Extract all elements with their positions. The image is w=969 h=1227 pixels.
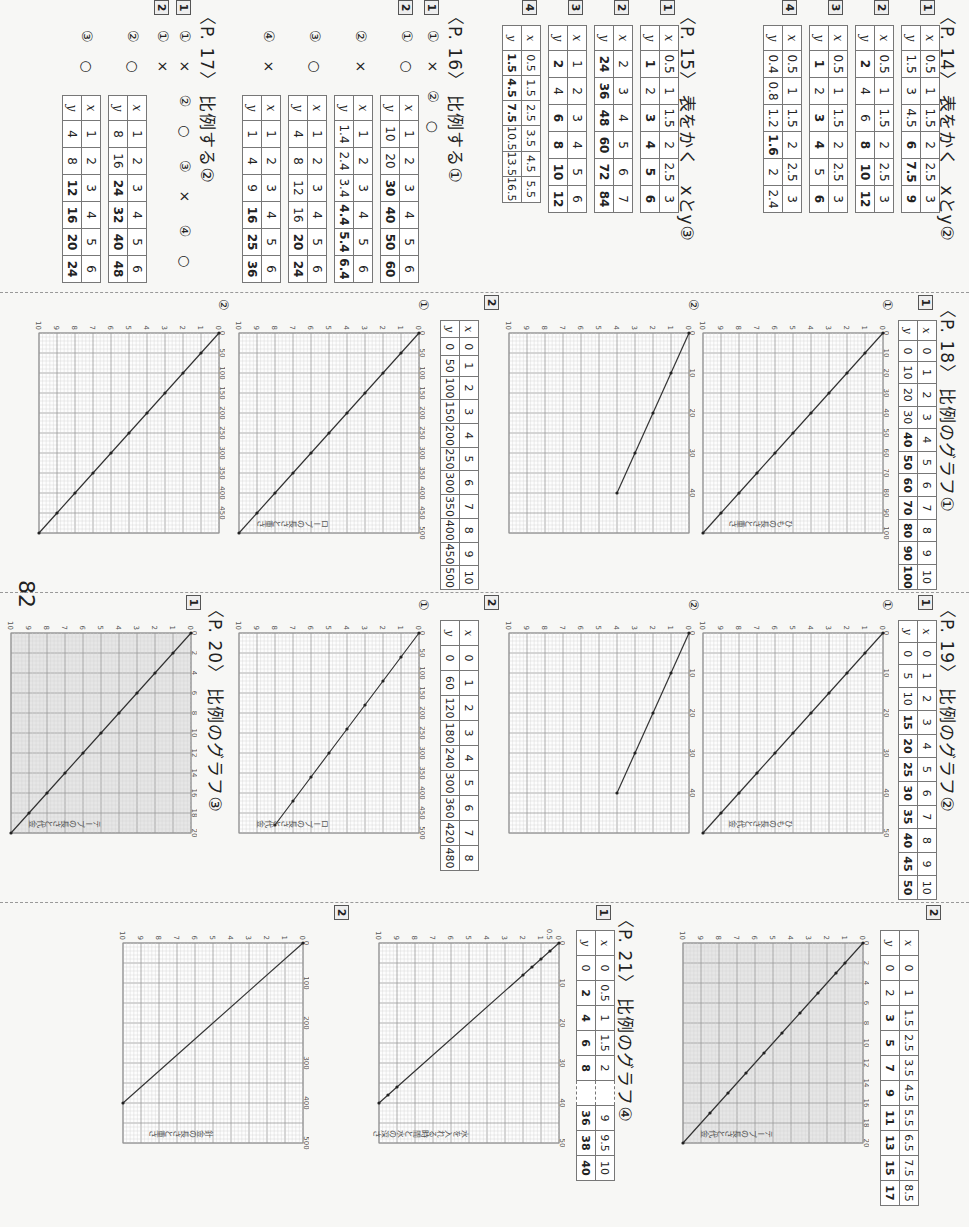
svg-text:300: 300 xyxy=(418,746,425,759)
svg-text:6: 6 xyxy=(576,626,584,631)
svg-text:8: 8 xyxy=(70,326,78,330)
svg-text:4: 4 xyxy=(342,626,350,631)
svg-text:5: 5 xyxy=(324,326,332,330)
svg-text:40: 40 xyxy=(688,789,695,798)
svg-text:14: 14 xyxy=(862,1079,869,1088)
svg-text:0: 0 xyxy=(858,936,866,940)
svg-text:4: 4 xyxy=(612,626,620,631)
xy-table: x123456 y102030405060 xyxy=(380,95,419,283)
svg-text:4: 4 xyxy=(806,626,814,631)
graph-p19-1-2: 010203040012345678910 xyxy=(491,615,695,845)
column-divider xyxy=(0,902,969,903)
xy-table: x0.511.522.53 y0.40.81.21.622.4 xyxy=(763,25,802,213)
svg-text:100: 100 xyxy=(218,366,225,379)
svg-text:6: 6 xyxy=(190,936,198,941)
svg-text:1: 1 xyxy=(536,936,544,940)
svg-text:4: 4 xyxy=(190,671,197,676)
svg-text:10: 10 xyxy=(234,621,242,630)
svg-text:12: 12 xyxy=(190,749,197,758)
section-title-p19: 〈P. 19〉 比例のグラフ② xyxy=(936,601,961,813)
xy-table: x123456 y4812162024 xyxy=(62,95,101,283)
svg-text:0: 0 xyxy=(684,326,692,330)
xy-table: x0.511.522.53 y24681012 xyxy=(855,25,894,213)
svg-text:10: 10 xyxy=(504,321,512,330)
svg-text:250: 250 xyxy=(418,726,425,739)
svg-text:10: 10 xyxy=(34,321,42,330)
question-number: 2 xyxy=(484,295,499,310)
svg-text:50: 50 xyxy=(218,349,225,358)
graph-label: ② xyxy=(216,299,231,311)
svg-text:6: 6 xyxy=(306,326,314,331)
answer-label: ①× xyxy=(155,30,171,90)
svg-text:9: 9 xyxy=(24,626,32,630)
column-divider xyxy=(0,292,969,293)
svg-text:0: 0 xyxy=(414,626,422,630)
graph-p18-1-1: 0102030405060708090100012345678910ひもの長さと… xyxy=(685,315,889,545)
xy-table: x0.511.522.53 y123456 xyxy=(640,25,679,213)
svg-text:200: 200 xyxy=(302,1016,309,1029)
svg-text:2: 2 xyxy=(822,936,830,940)
svg-text:ロープの長さと重さ: ロープの長さと重さ xyxy=(257,519,329,528)
svg-text:200: 200 xyxy=(218,406,225,419)
svg-text:0: 0 xyxy=(878,326,886,330)
question-number: 1 xyxy=(918,595,933,610)
xy-table: x234567 y243648607284 xyxy=(594,25,633,213)
svg-text:0: 0 xyxy=(414,326,422,330)
svg-text:16: 16 xyxy=(190,789,197,798)
svg-text:300: 300 xyxy=(218,446,225,459)
xy-table: x012345678910 y05101520253035404550 xyxy=(898,620,937,900)
svg-text:9: 9 xyxy=(696,936,704,940)
svg-text:40: 40 xyxy=(688,489,695,498)
svg-text:0: 0 xyxy=(298,936,306,940)
svg-text:7: 7 xyxy=(288,326,296,330)
svg-text:ロープの長さと代金: ロープの長さと代金 xyxy=(257,819,329,828)
answer-label: ③○ xyxy=(79,30,95,91)
question-number: 1 xyxy=(660,0,675,15)
xy-table: x012345678910 y0501001502002503003504004… xyxy=(440,320,479,590)
svg-text:400: 400 xyxy=(418,486,425,499)
question-number: 2 xyxy=(874,0,889,15)
svg-text:150: 150 xyxy=(418,386,425,399)
question-number: 1 xyxy=(918,295,933,310)
svg-text:350: 350 xyxy=(218,466,225,479)
svg-text:2: 2 xyxy=(862,961,869,965)
svg-text:18: 18 xyxy=(190,809,197,818)
svg-text:4: 4 xyxy=(482,936,490,941)
svg-text:テープの長さと代金: テープの長さと代金 xyxy=(701,1129,773,1138)
svg-text:7: 7 xyxy=(60,626,68,630)
svg-text:2: 2 xyxy=(842,626,850,630)
xy-table: x0.511.522.53 y123456 xyxy=(809,25,848,213)
svg-text:2: 2 xyxy=(378,626,386,630)
svg-text:8: 8 xyxy=(42,626,50,630)
svg-text:3: 3 xyxy=(630,626,638,630)
column-p19-p20: 〈P. 19〉 比例のグラフ② 1 x012345678910 y0510152… xyxy=(0,595,969,900)
section-title-p20: 〈P. 20〉 比例のグラフ③ xyxy=(204,601,229,813)
svg-text:9: 9 xyxy=(522,326,530,330)
svg-text:30: 30 xyxy=(688,449,695,458)
column-p14-p17: 〈P. 14〉 表をかく xとy② 1 x0.511.522.53 y1.534… xyxy=(0,0,969,290)
svg-text:20: 20 xyxy=(882,709,889,718)
question-number: 2 xyxy=(334,905,349,920)
svg-text:5: 5 xyxy=(788,326,796,330)
svg-text:12: 12 xyxy=(862,1059,869,1068)
svg-text:8: 8 xyxy=(714,936,722,940)
svg-text:2: 2 xyxy=(262,936,270,940)
svg-text:6: 6 xyxy=(106,326,114,331)
svg-text:3: 3 xyxy=(824,326,832,330)
xy-table: x123456 y149162536 xyxy=(242,95,281,283)
svg-text:20: 20 xyxy=(558,1019,565,1028)
svg-text:60: 60 xyxy=(882,449,889,458)
svg-text:10: 10 xyxy=(6,621,14,630)
question-number: 4 xyxy=(522,0,537,15)
svg-text:8: 8 xyxy=(862,1021,869,1025)
svg-text:7: 7 xyxy=(88,326,96,330)
svg-text:5: 5 xyxy=(594,326,602,330)
column-p18: 〈P. 18〉 比例のグラフ① 1 x012345678910 y0102030… xyxy=(0,295,969,590)
svg-text:1: 1 xyxy=(196,326,204,330)
svg-text:3: 3 xyxy=(244,936,252,940)
svg-text:10: 10 xyxy=(698,321,706,330)
svg-text:10: 10 xyxy=(688,669,695,678)
question-number: 1 xyxy=(186,595,201,610)
graph-label: ① xyxy=(416,299,431,311)
svg-text:20: 20 xyxy=(862,1139,869,1148)
